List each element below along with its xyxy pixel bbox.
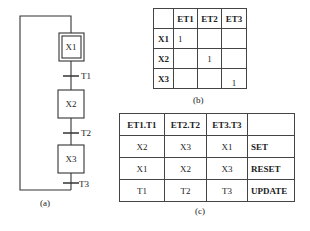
- transition-t3-label: T3: [79, 179, 89, 189]
- table-cell: X3: [207, 158, 248, 180]
- set-reset-update-table: ET1.T1 ET2.T2 ET3.T3 X2 X3 X1 SET X1 X2 …: [119, 113, 295, 202]
- caption-b: (b): [193, 95, 204, 105]
- step-x1-label: X1: [66, 42, 77, 52]
- table-row: X1 X2 X3 RESET: [120, 158, 295, 180]
- table-row: X2 1: [154, 49, 247, 69]
- step-x2-label: X2: [66, 99, 77, 109]
- action-label: RESET: [248, 158, 295, 180]
- table-cell: T2: [165, 180, 207, 202]
- table-cell: 1: [198, 49, 222, 69]
- table-cell: [222, 49, 247, 69]
- step-x3-label: X3: [66, 154, 77, 164]
- table-row: T1 T2 T3 UPDATE: [120, 180, 295, 202]
- table-cell: [198, 69, 222, 89]
- action-label: SET: [248, 136, 295, 158]
- header-cell: ET2: [198, 9, 222, 29]
- grafcet-diagram: X1 X2 X3 T1 T2 T3 (a): [0, 0, 110, 231]
- table-header-row: ET1.T1 ET2.T2 ET3.T3: [120, 114, 295, 136]
- transition-t2-label: T2: [81, 128, 91, 138]
- transition-t1-label: T1: [81, 71, 91, 81]
- row-header: X1: [154, 29, 174, 49]
- loop-back-line: [20, 16, 71, 190]
- header-cell: [154, 9, 174, 29]
- table-row: X2 X3 X1 SET: [120, 136, 295, 158]
- table-cell: X2: [120, 136, 165, 158]
- table-cell: [174, 69, 198, 89]
- table-row: X3 1: [154, 69, 247, 89]
- header-cell: ET3: [222, 9, 247, 29]
- table-cell: X1: [207, 136, 248, 158]
- action-label: UPDATE: [248, 180, 295, 202]
- table-cell: [198, 29, 222, 49]
- table-cell: [174, 49, 198, 69]
- caption-c: (c): [195, 206, 205, 216]
- table-cell: X1: [120, 158, 165, 180]
- table-cell: [222, 29, 247, 49]
- header-cell: ET3.T3: [207, 114, 248, 136]
- table-row: X1 1: [154, 29, 247, 49]
- row-header: X2: [154, 49, 174, 69]
- table-cell: 1: [222, 69, 247, 89]
- header-cell: [248, 114, 295, 136]
- header-cell: ET2.T2: [165, 114, 207, 136]
- table-cell: T1: [120, 180, 165, 202]
- table-cell: T3: [207, 180, 248, 202]
- step-transition-matrix: ET1 ET2 ET3 X1 1 X2 1 X3 1: [153, 8, 247, 89]
- table-cell: X3: [165, 136, 207, 158]
- header-cell: ET1: [174, 9, 198, 29]
- table-cell: X2: [165, 158, 207, 180]
- table-cell: 1: [174, 29, 198, 49]
- table-header-row: ET1 ET2 ET3: [154, 9, 247, 29]
- row-header: X3: [154, 69, 174, 89]
- caption-a: (a): [40, 198, 50, 208]
- header-cell: ET1.T1: [120, 114, 165, 136]
